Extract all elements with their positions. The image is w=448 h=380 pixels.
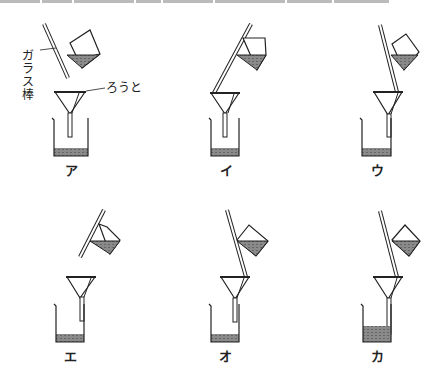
funnel-leader (86, 88, 105, 91)
receiving-beaker (360, 118, 391, 156)
filtration-diagrams (0, 0, 448, 380)
pouring-beaker (237, 225, 268, 256)
funnel (373, 92, 403, 137)
glass-rod (44, 24, 68, 78)
glass-rod (80, 210, 104, 257)
pouring-beaker (67, 30, 100, 68)
panel-label-ka: カ (371, 346, 384, 365)
glass-rod (380, 211, 397, 277)
panel-label-a: ア (65, 160, 78, 179)
funnel (210, 93, 240, 137)
panel-e (54, 210, 120, 342)
pouring-beaker (392, 225, 420, 256)
funnel-annotation: ろうと (106, 82, 142, 95)
funnel (220, 277, 250, 322)
panel-label-o: オ (219, 346, 232, 365)
panel-i (209, 24, 266, 156)
panel-u (360, 25, 419, 156)
glass-rod-annotation: ガラス棒 (22, 50, 35, 102)
panel-ka (361, 211, 420, 342)
funnel (373, 277, 403, 334)
panel-o (209, 210, 268, 342)
panel-label-u: ウ (371, 160, 384, 179)
pouring-beaker (391, 34, 419, 70)
funnel (54, 92, 86, 137)
panel-label-e: エ (64, 346, 77, 365)
panel-label-i: イ (220, 160, 233, 179)
funnel (66, 277, 96, 321)
